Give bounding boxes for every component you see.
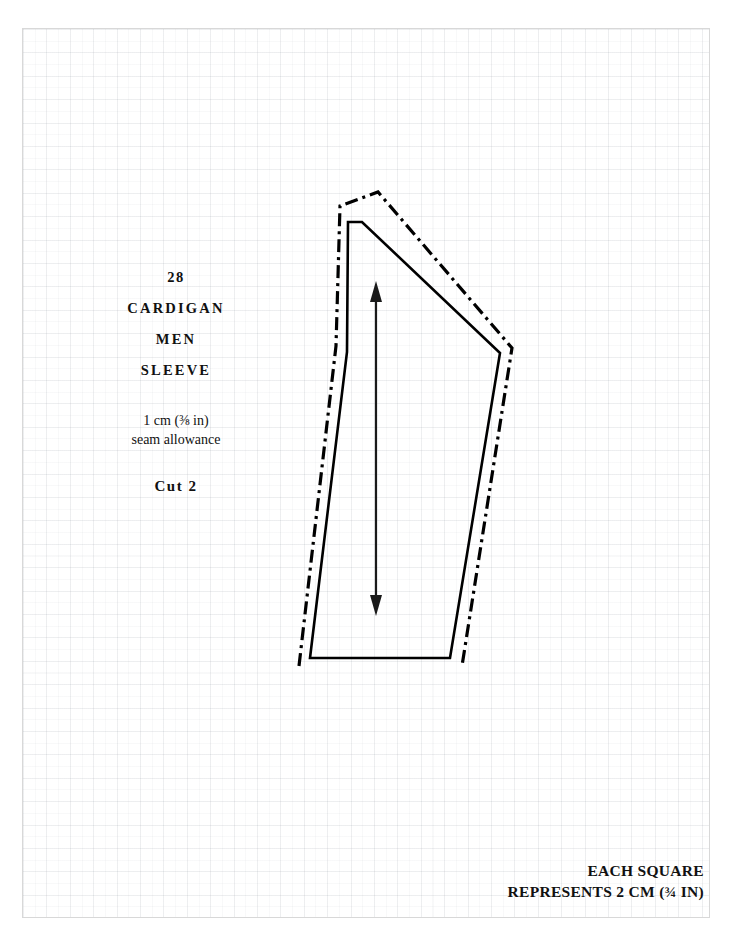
scale-legend-line1: EACH SQUARE: [508, 860, 705, 881]
piece-number: 28: [96, 262, 256, 293]
scale-legend: EACH SQUARE REPRESENTS 2 CM (¾ IN): [508, 860, 705, 902]
pattern-sheet-page: 28 CARDIGAN MEN SLEEVE 1 cm (⅜ in) seam …: [0, 0, 732, 950]
scale-legend-line2: REPRESENTS 2 CM (¾ IN): [508, 881, 705, 902]
seam-allowance-note: 1 cm (⅜ in) seam allowance: [96, 411, 256, 449]
graph-paper-sheet: [22, 28, 710, 918]
seam-allowance-measure: 1 cm (⅜ in): [96, 411, 256, 430]
piece-garment: CARDIGAN: [96, 293, 256, 324]
piece-info-block: 28 CARDIGAN MEN SLEEVE: [96, 262, 256, 386]
piece-category: MEN: [96, 324, 256, 355]
piece-part: SLEEVE: [96, 355, 256, 386]
seam-allowance-label: seam allowance: [96, 430, 256, 449]
cut-instruction: Cut 2: [96, 478, 256, 495]
